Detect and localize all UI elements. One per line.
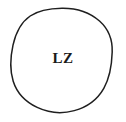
diagram-canvas: LZ (0, 0, 126, 122)
circle-node-label: LZ (0, 50, 126, 67)
